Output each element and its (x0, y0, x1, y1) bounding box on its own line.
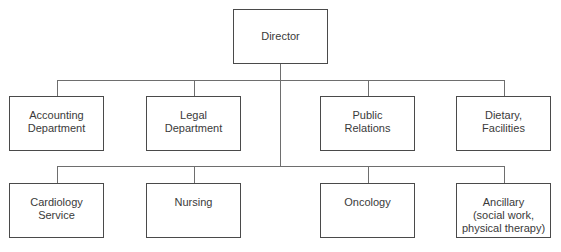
box-legal: LegalDepartment (146, 96, 241, 151)
connector-drop (194, 80, 195, 96)
box-cardiology: CardiologyService (9, 183, 104, 238)
connector-trunk (280, 63, 281, 167)
box-nursing: Nursing (146, 183, 241, 238)
box-director: Director (233, 9, 328, 64)
box-label-line: Director (234, 30, 327, 43)
box-dietary: Dietary,Facilities (456, 96, 551, 151)
box-label-line: Service (10, 209, 103, 222)
box-label-line: Relations (321, 122, 414, 135)
connector-branch (57, 80, 505, 81)
box-label-line: Legal (147, 109, 240, 122)
connector-drop (504, 80, 505, 96)
box-label-line: physical therapy) (457, 222, 550, 235)
box-label-line: Facilities (457, 122, 550, 135)
connector-drop (57, 80, 58, 96)
box-accounting: AccountingDepartment (9, 96, 104, 151)
connector-drop (504, 166, 505, 183)
box-label-line: (social work, (457, 209, 550, 222)
box-public-relations: PublicRelations (320, 96, 415, 151)
connector-drop (368, 166, 369, 183)
connector-drop (368, 80, 369, 96)
box-label-line: Nursing (147, 196, 240, 209)
box-label-line: Ancillary (457, 196, 550, 209)
box-label-line: Department (10, 122, 103, 135)
box-oncology: Oncology (320, 183, 415, 238)
box-label-line: Department (147, 122, 240, 135)
connector-drop (194, 166, 195, 183)
connector-branch (57, 166, 505, 167)
connector-drop (57, 166, 58, 183)
box-label-line: Public (321, 109, 414, 122)
box-label-line: Oncology (321, 196, 414, 209)
box-label-line: Cardiology (10, 196, 103, 209)
box-ancillary: Ancillary(social work,physical therapy) (456, 183, 551, 238)
box-label-line: Dietary, (457, 109, 550, 122)
box-label-line: Accounting (10, 109, 103, 122)
